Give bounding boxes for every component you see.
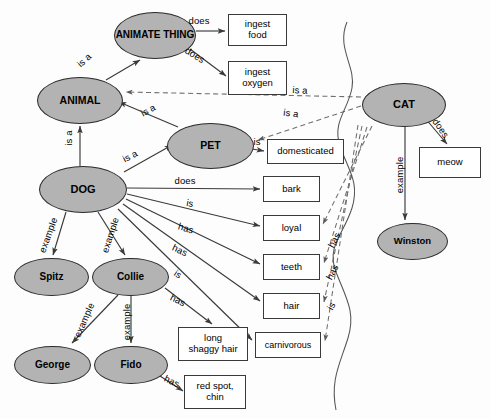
box-ingest-food[interactable]: ingest food [228, 14, 287, 46]
node-animal-label: ANIMAL [60, 95, 101, 106]
edge-label-e4: is a [63, 130, 74, 145]
node-fido-label: Fido [120, 360, 141, 371]
node-collie-label: Collie [117, 272, 144, 283]
edge-label-e7: is [253, 136, 260, 147]
box-ingest-oxygen-label: ingest oxygen [242, 67, 273, 89]
box-domesticated-label: domesticated [277, 146, 334, 157]
node-animal[interactable]: ANIMAL [37, 77, 123, 124]
node-spitz[interactable]: Spitz [14, 258, 89, 296]
box-domesticated[interactable]: domesticated [267, 139, 344, 164]
box-loyal[interactable]: loyal [263, 215, 320, 241]
box-long-shaggy-hair-label: long shaggy hair [188, 333, 237, 355]
node-george-label: George [35, 360, 70, 371]
box-red-spot-chin[interactable]: red spot, chin [184, 375, 246, 409]
box-ingest-food-label: ingest food [245, 19, 270, 41]
edge-label-e11: example [394, 157, 405, 194]
node-dog-label: DOG [70, 184, 95, 196]
edge-pet-is-domesticated [252, 149, 264, 151]
edge-label-e2: does [188, 15, 209, 26]
node-winston-label: Winston [394, 236, 431, 246]
edge-animal-isa-animatething [106, 60, 140, 80]
semantic-network-diagram: ANIMATE THING ANIMAL PET DOG CAT Spitz C… [0, 0, 490, 419]
edge-label-e20: example [121, 304, 132, 341]
node-cat-label: CAT [393, 99, 415, 111]
box-hair-label: hair [284, 301, 300, 312]
edge-label-e9: is a [283, 107, 299, 120]
box-red-spot-chin-label: red spot, chin [197, 381, 234, 403]
box-carnivorous[interactable]: carnivorous [255, 332, 321, 358]
box-hair[interactable]: hair [263, 293, 320, 319]
node-animate-thing-label: ANIMATE THING [116, 30, 195, 41]
box-teeth[interactable]: teeth [263, 254, 320, 280]
node-george[interactable]: George [14, 346, 91, 384]
box-teeth-label: teeth [281, 262, 302, 273]
box-loyal-label: loyal [282, 223, 302, 234]
box-bark[interactable]: bark [263, 176, 320, 202]
node-pet[interactable]: PET [167, 123, 254, 169]
box-meow[interactable]: meow [419, 147, 481, 178]
box-carnivorous-label: carnivorous [265, 340, 312, 350]
edge-label-e12: does [174, 175, 195, 186]
region-divider-wavy-line [333, 22, 355, 410]
edge-cat-isa-pet [258, 106, 361, 140]
node-collie[interactable]: Collie [92, 258, 169, 296]
box-meow-label: meow [437, 157, 462, 168]
box-bark-label: bark [282, 184, 300, 195]
node-pet-label: PET [200, 140, 220, 151]
node-dog[interactable]: DOG [39, 166, 127, 213]
edge-label-e8: is a [292, 84, 308, 96]
node-winston[interactable]: Winston [377, 223, 448, 260]
node-fido[interactable]: Fido [94, 346, 168, 384]
edge-dog-does-bark [127, 188, 260, 189]
box-long-shaggy-hair[interactable]: long shaggy hair [178, 327, 248, 361]
box-ingest-oxygen[interactable]: ingest oxygen [228, 61, 287, 95]
node-spitz-label: Spitz [40, 272, 64, 283]
